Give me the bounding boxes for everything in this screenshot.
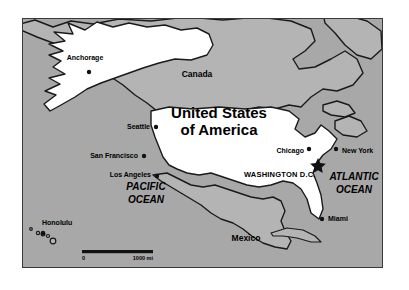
scale-label-end: 1000 mi: [133, 255, 154, 261]
ocean-label-pacific-line-2: OCEAN: [128, 194, 165, 205]
dot-icon-chicago: [307, 147, 311, 151]
dot-icon-new-york: [334, 147, 338, 151]
country-label-mexico: Mexico: [232, 233, 261, 243]
scale-label-start: 0: [82, 255, 85, 261]
ocean-label-atlantic-line-1: ATLANTIC: [328, 171, 379, 182]
scale-bar-line: [82, 250, 153, 253]
country-label-canada: Canada: [182, 69, 213, 79]
dot-icon-seattle: [154, 125, 158, 129]
dot-icon-honolulu: [41, 231, 45, 235]
dot-icon-san-francisco: [142, 154, 146, 158]
ocean-label-pacific-line-1: PACIFIC: [126, 181, 166, 192]
dot-icon-miami: [320, 217, 324, 221]
city-label-chicago: Chicago: [276, 147, 304, 155]
map-title-line-1: United States: [171, 104, 267, 121]
city-label-anchorage: Anchorage: [67, 54, 104, 62]
map-figure: Canada Mexico United States of America P…: [0, 0, 409, 290]
map-title-line-2: of America: [181, 121, 259, 138]
dot-icon-los-angeles: [155, 174, 159, 178]
city-label-miami: Miami: [328, 215, 348, 222]
ocean-label-atlantic-line-2: OCEAN: [336, 184, 373, 195]
capital-label-washington-dc: WASHINGTON D.C.: [244, 170, 316, 179]
city-label-seattle: Seattle: [127, 123, 150, 130]
map-canvas[interactable]: Canada Mexico United States of America P…: [23, 19, 382, 267]
city-label-new-york: New York: [342, 147, 373, 154]
city-label-los-angeles: Los Angeles: [110, 171, 151, 179]
map-frame: Canada Mexico United States of America P…: [22, 18, 383, 268]
city-label-honolulu: Honolulu: [42, 219, 72, 226]
dot-icon-anchorage: [87, 70, 91, 74]
city-label-san-francisco: San Francisco: [90, 152, 138, 159]
